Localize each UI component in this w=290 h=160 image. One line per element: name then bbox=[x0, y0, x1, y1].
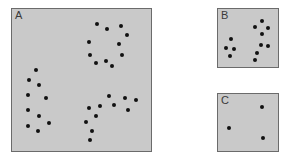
dot-marker bbox=[123, 96, 127, 100]
dot-marker bbox=[229, 37, 233, 41]
panel-c-label: C bbox=[221, 95, 229, 106]
dot-marker bbox=[88, 138, 92, 142]
dot-marker bbox=[253, 25, 257, 29]
dot-marker bbox=[266, 44, 270, 48]
dot-marker bbox=[94, 114, 98, 118]
dot-marker bbox=[107, 94, 111, 98]
dot-marker bbox=[87, 106, 91, 110]
dot-marker bbox=[112, 103, 116, 107]
dot-marker bbox=[44, 96, 48, 100]
dot-marker bbox=[110, 64, 114, 68]
panel-c: C bbox=[217, 93, 279, 152]
dot-marker bbox=[227, 126, 231, 130]
dot-marker bbox=[37, 114, 41, 118]
dot-marker bbox=[95, 22, 99, 26]
dot-marker bbox=[90, 129, 94, 133]
dot-marker bbox=[125, 33, 129, 37]
panel-a: A bbox=[11, 8, 152, 152]
dot-marker bbox=[260, 32, 264, 36]
dot-marker bbox=[259, 43, 263, 47]
dot-marker bbox=[27, 78, 31, 82]
dot-marker bbox=[47, 121, 51, 125]
dot-marker bbox=[224, 46, 228, 50]
dot-marker bbox=[36, 129, 40, 133]
dot-marker bbox=[84, 120, 88, 124]
panel-a-label: A bbox=[15, 10, 22, 21]
dot-marker bbox=[88, 53, 92, 57]
dot-marker bbox=[255, 51, 259, 55]
dot-marker bbox=[34, 68, 38, 72]
dot-marker bbox=[94, 61, 98, 65]
dot-marker bbox=[232, 47, 236, 51]
dot-marker bbox=[26, 108, 30, 112]
dot-marker bbox=[266, 26, 270, 30]
dot-marker bbox=[261, 136, 265, 140]
dot-marker bbox=[126, 108, 130, 112]
dot-marker bbox=[26, 93, 30, 97]
dot-marker bbox=[119, 24, 123, 28]
dot-marker bbox=[228, 54, 232, 58]
dot-marker bbox=[87, 40, 91, 44]
dot-marker bbox=[260, 105, 264, 109]
dot-marker bbox=[120, 53, 124, 57]
dot-marker bbox=[98, 104, 102, 108]
dot-marker bbox=[253, 58, 257, 62]
dot-marker bbox=[26, 124, 30, 128]
panel-b-label: B bbox=[221, 10, 228, 21]
dot-marker bbox=[134, 98, 138, 102]
dot-marker bbox=[117, 42, 121, 46]
dot-marker bbox=[260, 19, 264, 23]
panel-b: B bbox=[217, 8, 279, 68]
dot-marker bbox=[105, 27, 109, 31]
dot-marker bbox=[104, 59, 108, 63]
dot-marker bbox=[37, 83, 41, 87]
